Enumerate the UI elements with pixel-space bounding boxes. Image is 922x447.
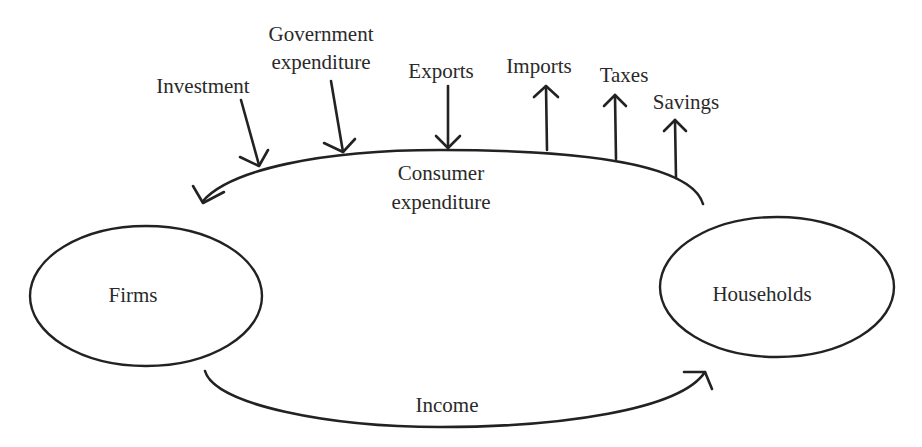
consumer-expenditure-label-line1: Consumer	[398, 161, 484, 185]
up-arrow-icon	[675, 120, 676, 178]
government-label-line1: Government	[269, 22, 374, 46]
circular-flow-diagram: Firms Households Consumer expenditure In…	[0, 0, 922, 447]
firms-label: Firms	[108, 283, 157, 307]
income-label: Income	[416, 393, 479, 417]
arrowhead-down-icon	[240, 150, 268, 166]
leakage-savings: Savings	[653, 90, 720, 178]
income-flow: Income	[205, 371, 712, 427]
injection-investment: Investment	[156, 74, 268, 166]
leakage-taxes: Taxes	[600, 63, 649, 159]
arrowhead-down-icon	[324, 139, 355, 152]
down-arrow-icon	[331, 81, 343, 152]
up-arrow-icon	[546, 86, 547, 150]
consumer-expenditure-flow: Consumer expenditure	[193, 150, 703, 214]
firms-node: Firms	[30, 226, 262, 366]
households-node: Households	[660, 217, 894, 357]
government-label-line2: expenditure	[271, 50, 370, 74]
investment-label: Investment	[156, 74, 249, 98]
injection-exports: Exports	[408, 59, 473, 148]
injection-government: Government expenditure	[269, 22, 374, 152]
savings-label: Savings	[653, 90, 720, 114]
taxes-label: Taxes	[600, 63, 649, 87]
consumer-expenditure-label-line2: expenditure	[391, 190, 490, 214]
imports-label: Imports	[506, 54, 571, 78]
leakage-imports: Imports	[506, 54, 571, 150]
up-arrow-icon	[615, 95, 616, 159]
exports-label: Exports	[408, 59, 473, 83]
households-label: Households	[712, 282, 811, 306]
down-arrow-icon	[241, 100, 259, 165]
